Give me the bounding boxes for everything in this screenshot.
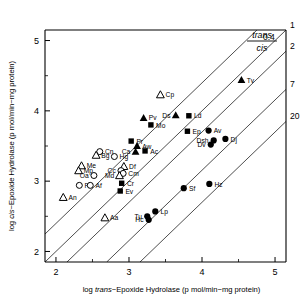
point-label-Cr: Cr (127, 180, 135, 187)
legend-numerator-trans: trans (252, 30, 272, 40)
marker-open-triangle (156, 91, 164, 98)
chart-figure: 0.41272023452345CpTvPvDsLdMoEpAvDjDshDvP… (0, 0, 302, 300)
y-axis-title: log cis−Epoxide Hydrolase (p mol/min−mg … (7, 60, 16, 231)
data-point-Hg: Hg (111, 153, 128, 161)
data-point-Pv: Pv (140, 114, 158, 122)
data-point-Sf: Sf (181, 185, 196, 192)
ratio-lines (45, 30, 286, 262)
data-point-Mo: Mo (148, 122, 165, 129)
marker-filled-square (148, 122, 153, 127)
y-tick-label: 4 (34, 106, 39, 116)
point-label-Tv: Tv (247, 77, 255, 84)
data-point-An: An (59, 193, 77, 201)
point-label-Ld: Ld (194, 112, 202, 119)
ratio-line-0.4 (45, 30, 257, 234)
data-point-Hc: Hc (135, 216, 151, 223)
y-tick-label: 2 (34, 247, 39, 257)
marker-filled-square (119, 181, 124, 186)
marker-filled-circle (205, 127, 211, 133)
point-label-Hz: Hz (215, 181, 224, 188)
data-point-Md: Md (105, 172, 123, 180)
data-point-Ep: Ep (185, 128, 201, 136)
marker-filled-triangle (140, 114, 148, 121)
data-point-Aa: Aa (101, 214, 119, 222)
marker-filled-circle (146, 217, 152, 223)
legend-denominator-cis: cis (257, 43, 268, 53)
marker-filled-square (142, 148, 147, 153)
marker-open-circle (76, 182, 82, 188)
data-point-Cm: Cm (120, 170, 139, 177)
marker-filled-square (186, 113, 191, 118)
point-label-Mo: Mo (156, 122, 166, 129)
x-tick-label: 2 (53, 267, 58, 277)
marker-filled-circle (152, 208, 158, 214)
point-label-Ac: Ac (150, 148, 158, 155)
data-point-Ac: Ac (142, 148, 158, 155)
data-point-Af: Af (87, 182, 102, 189)
point-label-Df: Df (129, 163, 136, 170)
marker-open-triangle (59, 193, 67, 200)
marker-open-circle (87, 182, 93, 188)
point-label-An: An (68, 194, 76, 201)
marker-open-circle (111, 154, 117, 160)
point-label-Av: Av (214, 127, 222, 134)
point-label-Dj: Dj (231, 136, 238, 144)
data-point-Cp: Cp (156, 91, 174, 100)
data-point-Dj: Dj (222, 136, 237, 144)
marker-filled-square (118, 188, 123, 193)
y-tick-label: 5 (34, 36, 39, 46)
point-label-Hc: Hc (135, 216, 144, 223)
marker-open-circle (91, 173, 97, 179)
point-label-Md: Md (105, 172, 115, 179)
scatter-plot-svg: 0.41272023452345CpTvPvDsLdMoEpAvDjDshDvP… (0, 0, 302, 300)
ratio-label-20: 20 (290, 111, 300, 121)
x-tick-label: 5 (273, 267, 278, 277)
marker-open-triangle (101, 214, 109, 221)
data-points: CpTvPvDsLdMoEpAvDjDshDvPrAwAcCaCnBgHgMeD… (59, 76, 254, 223)
point-label-Cp: Cp (166, 91, 175, 99)
point-label-Cm: Cm (128, 170, 139, 177)
point-label-Ev: Ev (125, 188, 133, 195)
marker-filled-square (128, 138, 133, 143)
ratio-line-1 (45, 30, 286, 262)
data-point-Av: Av (205, 127, 222, 134)
data-point-Ld: Ld (186, 112, 202, 119)
point-label-Ds: Ds (162, 112, 171, 119)
point-label-Ep: Ep (193, 128, 201, 136)
ratio-label-1: 1 (290, 20, 295, 30)
x-axis-title: log trans−Epoxide Hydrolase (p mol/min−m… (83, 285, 261, 294)
marker-filled-triangle (238, 76, 246, 83)
marker-filled-circle (208, 141, 214, 147)
ratio-label-7: 7 (290, 79, 295, 89)
point-label-Sf: Sf (189, 185, 195, 192)
data-point-Lp: Lp (152, 208, 168, 216)
data-point-Cr: Cr (119, 180, 135, 187)
marker-filled-square (185, 129, 190, 134)
marker-filled-triangle (172, 111, 180, 118)
point-label-Af: Af (95, 182, 101, 189)
x-tick-label: 3 (126, 267, 131, 277)
axis-ticks: 23452345 (34, 36, 278, 277)
point-label-Hg: Hg (120, 153, 129, 161)
data-point-Bg: Bg (92, 151, 110, 160)
data-point-Hz: Hz (206, 181, 223, 188)
point-label-Dv: Dv (197, 141, 206, 148)
data-point-Oa: Oa (80, 172, 97, 179)
data-point-Tv: Tv (238, 76, 255, 84)
point-label-Bg: Bg (101, 152, 109, 160)
marker-filled-circle (222, 136, 228, 142)
point-label-Aa: Aa (110, 214, 118, 221)
marker-filled-circle (181, 185, 187, 191)
x-tick-label: 4 (200, 267, 205, 277)
point-label-Pv: Pv (149, 114, 157, 121)
point-label-Lp: Lp (160, 208, 168, 216)
marker-filled-circle (206, 181, 212, 187)
data-point-Ev: Ev (118, 188, 134, 195)
ratio-label-2: 2 (290, 41, 295, 51)
y-tick-label: 3 (34, 176, 39, 186)
point-label-Oa: Oa (80, 172, 89, 179)
